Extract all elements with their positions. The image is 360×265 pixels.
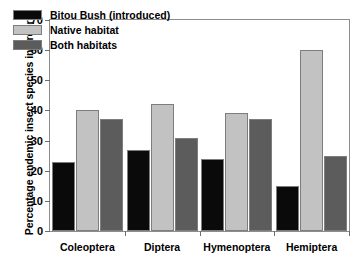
y-axis-tick-label: 30 [31,135,43,147]
legend-item[interactable]: Both habitats [13,38,170,52]
bar-group [200,20,275,231]
bar[interactable] [151,104,174,231]
bar[interactable] [300,50,323,231]
bar[interactable] [276,186,299,231]
legend-swatch-icon [13,10,42,20]
legend-label: Native habitat [50,25,119,36]
x-axis-category-label: Diptera [144,241,180,253]
x-axis-tick [200,231,201,236]
bar[interactable] [201,159,224,231]
y-axis-tick-label: 0 [37,225,43,237]
bar[interactable] [249,119,272,231]
legend-item[interactable]: Native habitat [13,23,170,37]
bar[interactable] [52,162,75,231]
legend-label: Both habitats [50,40,117,51]
x-axis-category-label: Hemiptera [286,241,337,253]
bar[interactable] [127,150,150,231]
legend-label: Bitou Bush (introduced) [50,10,170,21]
bar[interactable] [324,156,347,231]
figure: Percentage endemic insect species in ord… [0,0,360,265]
y-axis-tick-label: 50 [31,74,43,86]
bar[interactable] [76,110,99,231]
legend-swatch-icon [13,40,42,50]
y-axis-tick-label: 10 [31,195,43,207]
y-axis-tick-label: 40 [31,104,43,116]
y-axis-tick [45,231,50,232]
x-axis-tick [274,231,275,236]
bar[interactable] [175,138,198,231]
legend-swatch-icon [13,25,42,35]
legend-item[interactable]: Bitou Bush (introduced) [13,8,170,22]
bar[interactable] [225,113,248,231]
x-axis-tick [349,231,350,236]
x-axis-category-label: Hymenoptera [203,241,270,253]
bar[interactable] [100,119,123,231]
y-axis-tick-label: 20 [31,165,43,177]
legend: Bitou Bush (introduced)Native habitatBot… [13,8,170,53]
x-axis-category-label: Coleoptera [60,241,115,253]
x-axis-tick [125,231,126,236]
bar-group [274,20,349,231]
